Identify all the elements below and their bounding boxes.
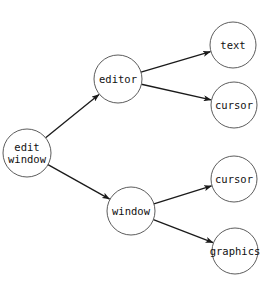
edge-window-to-graphics bbox=[153, 220, 213, 243]
node-label: cursor bbox=[215, 99, 253, 111]
node-window: window bbox=[107, 187, 155, 235]
node-cursor-2: cursor bbox=[211, 156, 257, 202]
object-hierarchy-diagram: editwindoweditortextcursorwindowcursorgr… bbox=[0, 0, 277, 290]
edge-window-to-cursor-2 bbox=[154, 186, 212, 204]
node-edit-window: editwindow bbox=[3, 129, 51, 177]
node-label: edit bbox=[14, 141, 39, 153]
edge-edit-window-to-window bbox=[48, 165, 110, 199]
node-label: graphics bbox=[210, 245, 261, 257]
node-label: cursor bbox=[215, 173, 253, 185]
node-label: editor bbox=[99, 73, 137, 85]
edge-editor-to-text bbox=[141, 52, 210, 73]
node-editor: editor bbox=[94, 55, 142, 103]
node-label: window bbox=[112, 205, 151, 217]
edge-edit-window-to-editor bbox=[46, 94, 99, 137]
node-graphics: graphics bbox=[210, 228, 261, 274]
node-text: text bbox=[210, 22, 256, 68]
node-label: window bbox=[8, 153, 47, 165]
node-label: text bbox=[220, 39, 245, 51]
edge-editor-to-cursor-1 bbox=[141, 84, 211, 100]
nodes-layer: editwindoweditortextcursorwindowcursorgr… bbox=[3, 22, 260, 274]
node-cursor-1: cursor bbox=[211, 82, 257, 128]
